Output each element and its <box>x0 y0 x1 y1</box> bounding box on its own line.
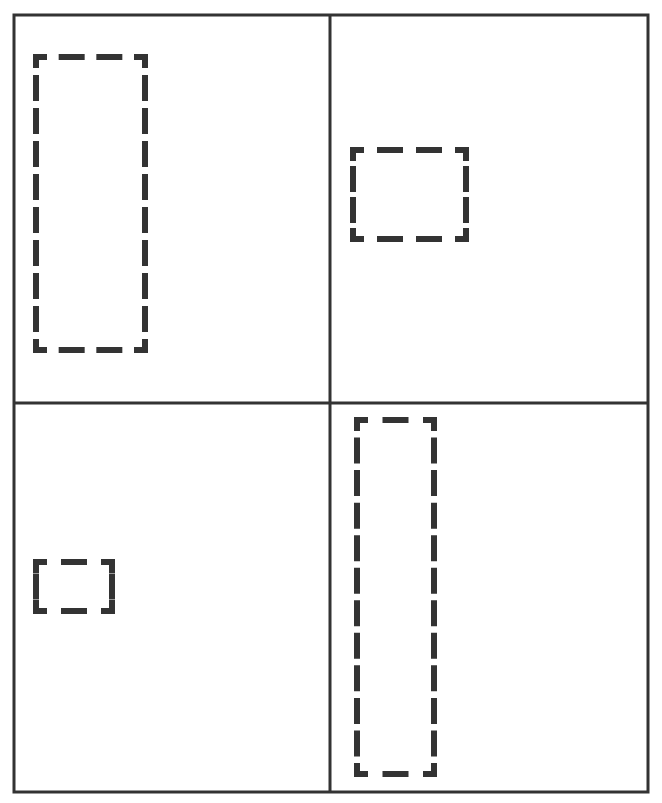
dashed-rectangles <box>36 57 466 774</box>
diagram-canvas <box>0 0 662 803</box>
dashed-rectangle-top-left <box>36 57 145 350</box>
dashed-rectangle-bottom-left <box>36 562 112 611</box>
dashed-rectangle-top-right <box>353 150 466 239</box>
dashed-rectangle-bottom-right <box>357 420 434 774</box>
